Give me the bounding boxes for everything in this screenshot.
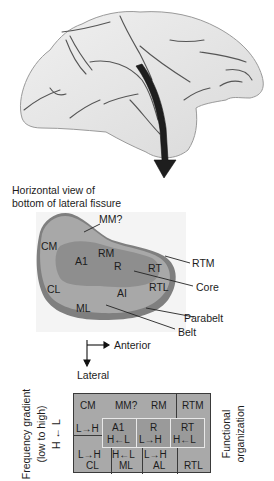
- h-l-axis-arrow: H ← L: [50, 409, 62, 459]
- cm-gradient: L→H: [76, 423, 99, 434]
- ml-gradient: H←L: [112, 449, 135, 460]
- callout-core: Core: [196, 281, 219, 293]
- cell-r: R: [150, 422, 157, 433]
- cell-rt: RT: [181, 422, 194, 433]
- cell-rtm: RTM: [182, 400, 203, 411]
- cell-rtl: RTL: [184, 460, 203, 471]
- rt-gradient: H←L: [173, 434, 196, 445]
- caption-line-1: Horizontal view of: [12, 184, 121, 197]
- caption-line-2: bottom of lateral fissure: [12, 197, 121, 210]
- label-cl: CL: [47, 283, 60, 295]
- orientation-anterior: Anterior: [114, 339, 151, 351]
- cell-cl: CL: [86, 460, 99, 471]
- label-rt: RT: [148, 262, 162, 274]
- functional-organization-table: CM MM? RM RTM L→H A1 H←L R L→H RT H←L L→…: [73, 393, 211, 473]
- al-gradient: L→H: [144, 449, 167, 460]
- label-cm: CM: [41, 240, 57, 252]
- divider: [177, 448, 178, 474]
- divider: [176, 394, 177, 419]
- frequency-gradient-label: Frequency gradient: [20, 384, 32, 481]
- label-ml: ML: [76, 302, 91, 314]
- callout-parabelt: Parabelt: [184, 312, 223, 324]
- label-mm: MM?: [99, 213, 122, 225]
- label-r: R: [114, 260, 122, 272]
- organization-label: organization: [234, 394, 246, 474]
- a1-gradient: H←L: [107, 434, 130, 445]
- label-a1: A1: [75, 255, 88, 267]
- cell-cm: CM: [80, 400, 96, 411]
- label-al: AI: [117, 287, 127, 299]
- cell-al: AL: [153, 460, 165, 471]
- view-caption: Horizontal view of bottom of lateral fis…: [12, 184, 121, 210]
- divider: [74, 435, 103, 436]
- cl-gradient: L→H: [78, 449, 101, 460]
- orientation-lateral: Lateral: [77, 369, 109, 381]
- r-gradient: L→H: [139, 434, 162, 445]
- brain-outline: [20, 12, 263, 158]
- cell-a1: A1: [112, 422, 124, 433]
- divider: [142, 448, 143, 474]
- label-rm: RM: [98, 247, 114, 259]
- label-rtm: RTM: [192, 257, 215, 269]
- label-rtl: RTL: [149, 281, 169, 293]
- low-to-high-label: (low to high): [35, 384, 47, 481]
- cell-ml: ML: [119, 460, 133, 471]
- cell-rm: RM: [151, 400, 167, 411]
- cell-mm: MM?: [115, 400, 137, 411]
- functional-label: Functional: [220, 394, 232, 474]
- callout-belt: Belt: [178, 326, 196, 338]
- orientation-compass: [84, 340, 109, 366]
